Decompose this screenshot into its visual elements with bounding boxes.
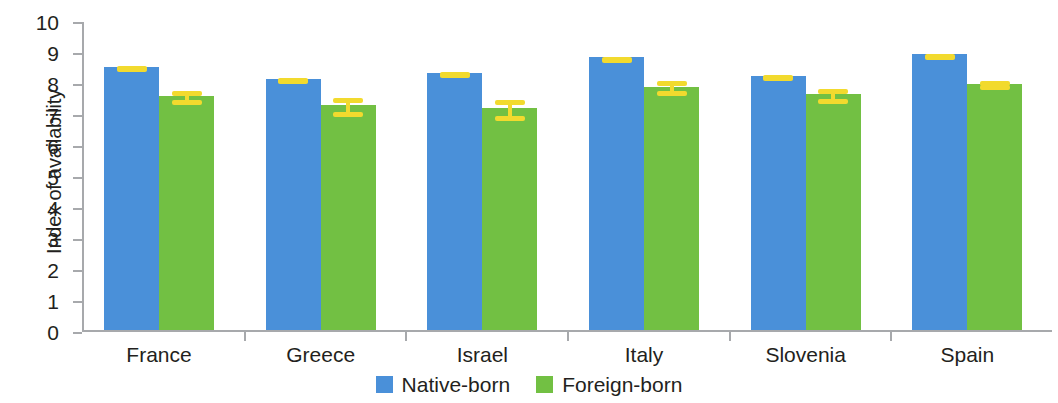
category-separator-tick — [405, 332, 407, 341]
bar-greece-native-born — [266, 79, 321, 330]
y-axis-tick-label: 8 — [47, 74, 59, 95]
error-bar-cap-top — [333, 98, 363, 103]
y-axis-tick: 7 — [73, 115, 82, 117]
bar-israel-foreign-born — [482, 108, 537, 330]
y-axis-tick: 9 — [73, 53, 82, 55]
y-axis-tick-label: 5 — [47, 167, 59, 188]
y-axis-tick: 0 — [73, 332, 82, 334]
y-axis-tick: 6 — [73, 146, 82, 148]
y-axis-tick-label: 10 — [36, 12, 59, 33]
legend-item-foreign-born: Foreign-born — [536, 374, 682, 395]
y-axis-tick-label: 4 — [47, 198, 59, 219]
y-axis-tick-label: 3 — [47, 229, 59, 250]
bar-spain-foreign-born — [967, 84, 1022, 330]
y-axis-tick: 8 — [73, 84, 82, 86]
y-axis-tick-label: 2 — [47, 260, 59, 281]
category-separator-tick — [890, 332, 892, 341]
y-axis-tick: 4 — [73, 208, 82, 210]
y-axis-tick: 1 — [73, 301, 82, 303]
bar-france-native-born — [104, 67, 159, 331]
bar-slovenia-native-born — [751, 76, 806, 330]
bar-israel-native-born — [427, 73, 482, 330]
legend-label-foreign-born: Foreign-born — [562, 374, 682, 395]
x-axis-label-france: France — [126, 344, 191, 365]
y-axis-tick: 2 — [73, 270, 82, 272]
plot-area: 109876543210 — [82, 22, 1052, 332]
y-axis-tick-label: 9 — [47, 43, 59, 64]
category-separator-tick — [567, 332, 569, 341]
legend-swatch-foreign-born-icon — [536, 376, 553, 393]
y-axis-tick: 3 — [73, 239, 82, 241]
y-axis-tick-label: 1 — [47, 291, 59, 312]
chart-legend: Native-born Foreign-born — [0, 374, 1058, 395]
error-bar-cap-top — [818, 89, 848, 94]
bar-spain-native-born — [912, 54, 967, 330]
bar-france-foreign-born — [159, 96, 214, 330]
legend-swatch-native-born-icon — [376, 376, 393, 393]
x-axis-label-italy: Italy — [625, 344, 664, 365]
y-axis-tick-label: 6 — [47, 136, 59, 157]
legend-item-native-born: Native-born — [376, 374, 511, 395]
legend-label-native-born: Native-born — [402, 374, 511, 395]
bar-italy-foreign-born — [644, 87, 699, 330]
y-axis-tick: 10 — [73, 22, 82, 24]
error-bar-cap-top — [657, 81, 687, 86]
x-axis-label-spain: Spain — [940, 344, 994, 365]
y-axis-tick-label: 7 — [47, 105, 59, 126]
y-axis-line — [82, 22, 84, 332]
error-bar-cap-top — [495, 100, 525, 105]
x-axis-label-slovenia: Slovenia — [765, 344, 846, 365]
bar-chart: Index of availability 109876543210 Franc… — [0, 0, 1058, 403]
x-axis-label-israel: Israel — [457, 344, 508, 365]
category-separator-tick — [244, 332, 246, 341]
x-axis-label-greece: Greece — [286, 344, 355, 365]
y-axis-tick: 5 — [73, 177, 82, 179]
bar-greece-foreign-born — [321, 105, 376, 330]
y-axis-tick-label: 0 — [47, 322, 59, 343]
category-separator-tick — [729, 332, 731, 341]
bar-italy-native-born — [589, 57, 644, 330]
bar-slovenia-foreign-born — [806, 94, 861, 330]
